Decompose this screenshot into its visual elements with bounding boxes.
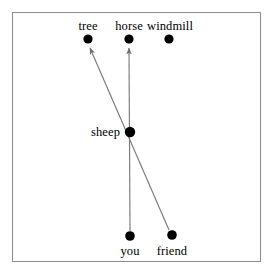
node-label-horse: horse [115, 20, 143, 33]
node-dot-sheep [125, 127, 135, 137]
node-dot-tree [83, 34, 92, 43]
edges-group [90, 48, 169, 231]
node-dot-you [125, 231, 135, 241]
node-label-windmill: windmill [147, 20, 193, 33]
node-dot-windmill [164, 34, 173, 43]
node-dot-horse [124, 34, 133, 43]
node-label-friend: friend [157, 245, 187, 258]
diagram-canvas: treehorsewindmillsheepyoufriend [0, 0, 275, 273]
diagram-graphics [0, 0, 275, 273]
node-label-you: you [120, 245, 139, 258]
node-label-tree: tree [78, 20, 97, 33]
node-label-sheep: sheep [91, 126, 120, 139]
node-dot-friend [167, 230, 177, 240]
